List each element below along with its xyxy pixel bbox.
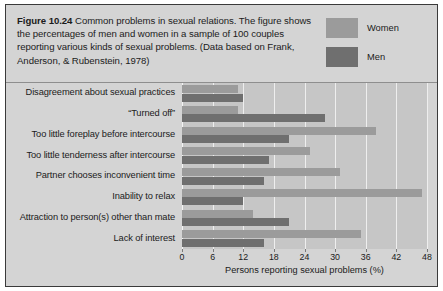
- bar-women-6: [182, 210, 253, 218]
- figure-number: Figure 10.24: [17, 15, 72, 26]
- category-label-6: Attraction to person(s) other than mate: [6, 212, 175, 222]
- category-label-2: Too little foreplay before intercourse: [6, 129, 175, 139]
- legend-swatch-women-icon: [326, 18, 358, 38]
- figure-caption: Figure 10.24 Common problems in sexual r…: [17, 14, 313, 67]
- legend-label-men: Men: [367, 52, 385, 62]
- bar-women-3: [182, 147, 310, 155]
- bar-men-4: [182, 177, 264, 185]
- legend-swatch-men-icon: [326, 47, 358, 67]
- bar-women-1: [182, 106, 238, 114]
- chart-plot-area: Disagreement about sexual practices“Turn…: [6, 83, 438, 287]
- bar-men-2: [182, 135, 289, 143]
- category-label-5: Inability to relax: [6, 191, 175, 201]
- x-axis-title: Persons reporting sexual problems (%): [182, 265, 427, 275]
- category-label-1: “Turned off”: [6, 108, 175, 118]
- bar-women-2: [182, 127, 376, 135]
- chart-legend: Women Men: [326, 16, 434, 74]
- category-axis-labels: Disagreement about sexual practices“Turn…: [6, 83, 179, 249]
- bar-men-5: [182, 197, 243, 205]
- category-label-0: Disagreement about sexual practices: [6, 87, 175, 97]
- tick-label-12: 12: [238, 252, 248, 262]
- bar-women-0: [182, 85, 238, 93]
- legend-label-women: Women: [367, 23, 399, 33]
- gridline-24: [305, 83, 306, 249]
- tick-label-48: 48: [422, 252, 432, 262]
- bar-men-6: [182, 218, 289, 226]
- tick-label-24: 24: [300, 252, 310, 262]
- tick-label-0: 0: [180, 252, 185, 262]
- chart-grid: [182, 83, 427, 249]
- bar-men-0: [182, 94, 243, 102]
- gridline-42: [396, 83, 397, 249]
- gridline-48: [427, 83, 428, 249]
- tick-label-36: 36: [361, 252, 371, 262]
- bar-men-3: [182, 156, 269, 164]
- tick-label-42: 42: [391, 252, 401, 262]
- category-label-7: Lack of interest: [6, 233, 175, 243]
- figure-card: Figure 10.24 Common problems in sexual r…: [5, 4, 438, 287]
- figure-root: Figure 10.24 Common problems in sexual r…: [0, 0, 443, 291]
- gridline-36: [366, 83, 367, 249]
- tick-label-18: 18: [269, 252, 279, 262]
- bar-women-7: [182, 230, 361, 238]
- caption-area: Figure 10.24 Common problems in sexual r…: [6, 5, 437, 82]
- tick-label-30: 30: [330, 252, 340, 262]
- category-label-4: Partner chooses inconvenient time: [6, 170, 175, 180]
- legend-item-men: Men: [326, 45, 434, 69]
- bar-men-1: [182, 114, 325, 122]
- category-label-3: Too little tenderness after intercourse: [6, 150, 175, 160]
- bar-women-4: [182, 168, 340, 176]
- bar-women-5: [182, 189, 422, 197]
- bar-men-7: [182, 239, 264, 247]
- legend-item-women: Women: [326, 16, 434, 40]
- gridline-30: [335, 83, 336, 249]
- tick-label-6: 6: [210, 252, 215, 262]
